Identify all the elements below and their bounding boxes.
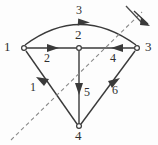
edge-1-arrowhead (36, 77, 49, 86)
node-4-label: 4 (75, 129, 82, 142)
node-2-marker[interactable] (77, 46, 82, 51)
node-3-label: 3 (145, 40, 152, 53)
node-1-label: 1 (4, 40, 11, 53)
edge-4-label: 4 (110, 52, 116, 64)
edge-5-arc (75, 51, 83, 123)
cut-line-tick (126, 6, 143, 24)
edge-1-label: 1 (30, 81, 36, 93)
node-1-marker[interactable] (22, 46, 27, 51)
diagram-canvas (0, 0, 158, 145)
edge-5-arrowhead (75, 83, 83, 95)
edge-5-label: 5 (84, 86, 90, 98)
edge-2-arc (27, 44, 76, 52)
cut-line-arrowhead (140, 17, 150, 26)
node-3-marker[interactable] (135, 46, 140, 51)
node-2-label: 2 (75, 28, 82, 41)
edge-6-label: 6 (112, 84, 118, 96)
edge-2-label: 2 (44, 52, 50, 64)
edge-3-label: 3 (76, 4, 82, 16)
graph-diagram: 1 2 3 4 3 2 4 1 5 6 (0, 0, 158, 145)
